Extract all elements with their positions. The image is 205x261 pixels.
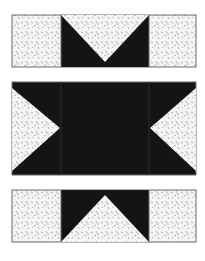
top-band [12,15,196,67]
quilt-block-figure [0,0,205,261]
bottom-band [12,190,196,242]
middle-band [12,82,196,175]
